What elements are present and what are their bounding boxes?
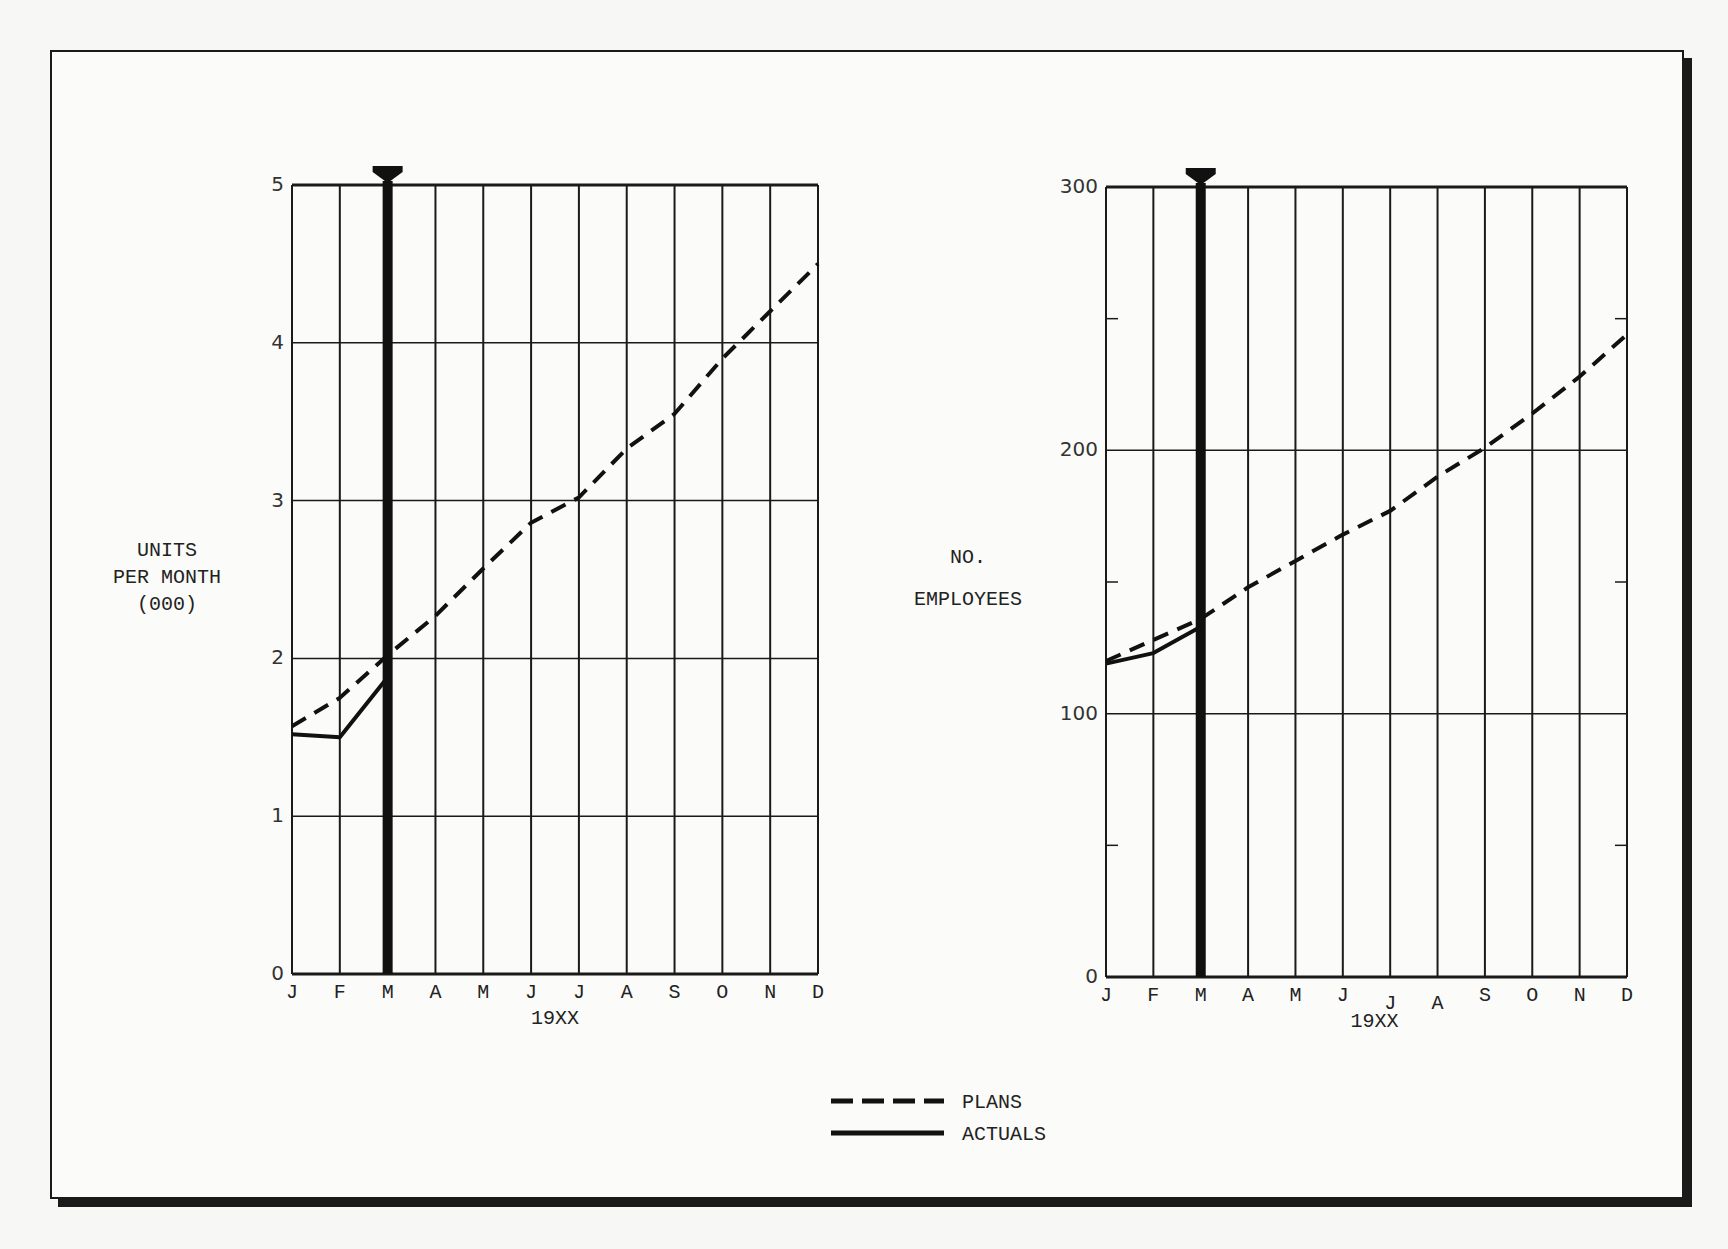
y-axis-title: (000): [137, 593, 197, 616]
y-tick-label: 0: [1085, 964, 1098, 988]
y-tick-label: 0: [271, 961, 284, 985]
y-axis-title: UNITS: [137, 539, 197, 562]
x-tick-label: A: [1432, 992, 1444, 1015]
y-tick-label: 1: [271, 803, 284, 827]
x-tick-label: J: [1100, 984, 1112, 1007]
current-month-arrow-icon: [1186, 168, 1216, 185]
legend: PLANSACTUALS: [831, 1091, 1046, 1146]
y-tick-label: 100: [1060, 701, 1098, 725]
legend-label-plans: PLANS: [962, 1091, 1022, 1114]
x-tick-label: F: [1147, 984, 1159, 1007]
x-tick-label: M: [382, 981, 394, 1004]
legend-label-actuals: ACTUALS: [962, 1123, 1046, 1146]
x-tick-label: O: [716, 981, 728, 1004]
chart-1: 012345JFMAMJJASOND19XXUNITSPER MONTH(000…: [113, 166, 824, 1030]
y-tick-label: 200: [1060, 437, 1098, 461]
y-axis-title: NO.: [950, 546, 986, 569]
x-tick-label: J: [1337, 984, 1349, 1007]
y-tick-label: 4: [271, 330, 284, 354]
y-axis-title: EMPLOYEES: [914, 588, 1022, 611]
chart-2: 0100200300JFMAMJJASOND19XXNO.EMPLOYEES: [914, 168, 1633, 1033]
x-tick-label: S: [1479, 984, 1491, 1007]
y-axis-title: PER MONTH: [113, 566, 221, 589]
y-tick-label: 3: [271, 488, 284, 512]
x-axis-title: 19XX: [531, 1007, 579, 1030]
plans-line: [292, 264, 818, 726]
chart-canvas: 012345JFMAMJJASOND19XXUNITSPER MONTH(000…: [0, 0, 1728, 1249]
x-tick-label: A: [621, 981, 633, 1004]
x-tick-label: N: [764, 981, 776, 1004]
current-month-bar: [383, 181, 393, 974]
x-tick-label: J: [573, 981, 585, 1004]
plans-line: [1106, 334, 1627, 661]
x-tick-label: N: [1574, 984, 1586, 1007]
x-tick-label: A: [1242, 984, 1254, 1007]
y-tick-label: 2: [271, 645, 284, 669]
current-month-arrow-icon: [373, 166, 403, 183]
x-tick-label: M: [477, 981, 489, 1004]
current-month-bar: [1196, 183, 1206, 977]
x-tick-label: O: [1526, 984, 1538, 1007]
x-axis-title: 19XX: [1350, 1010, 1398, 1033]
y-tick-label: 5: [271, 172, 284, 196]
y-tick-label: 300: [1060, 174, 1098, 198]
x-tick-label: M: [1195, 984, 1207, 1007]
x-tick-label: D: [1621, 984, 1633, 1007]
x-tick-label: A: [429, 981, 441, 1004]
x-tick-label: J: [286, 981, 298, 1004]
x-tick-label: M: [1289, 984, 1301, 1007]
x-tick-label: S: [669, 981, 681, 1004]
x-tick-label: F: [334, 981, 346, 1004]
x-tick-label: J: [525, 981, 537, 1004]
x-tick-label: D: [812, 981, 824, 1004]
